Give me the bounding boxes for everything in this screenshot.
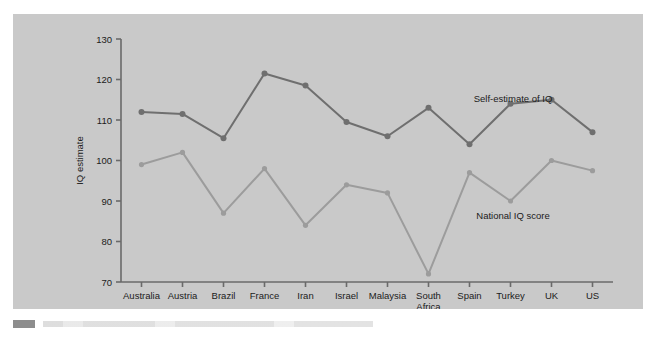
figure-caption-strip [13, 318, 643, 332]
x-axis-category-label: Brazil [212, 290, 236, 301]
data-point-marker [139, 162, 144, 167]
data-point-marker [344, 182, 349, 187]
data-point-marker [426, 271, 431, 276]
data-point-marker [467, 141, 473, 147]
y-axis-tick-label: 120 [96, 74, 112, 85]
data-point-marker [180, 111, 186, 117]
x-axis-category-label: Spain [457, 290, 481, 301]
data-point-marker [221, 135, 227, 141]
annotation-national-iq: National IQ score [476, 210, 549, 221]
series-line-self-estimate [142, 73, 593, 144]
y-axis-tick-label: 110 [97, 115, 112, 126]
y-axis-tick-label: 100 [96, 155, 112, 166]
y-axis-tick-label: 90 [101, 196, 112, 207]
data-point-marker [139, 109, 145, 115]
x-axis-category-label: Israel [335, 290, 358, 301]
annotation-self-estimate: Self-estimate of IQ [474, 93, 553, 104]
data-point-marker [344, 119, 350, 125]
data-point-marker [467, 170, 472, 175]
data-point-marker [385, 133, 391, 139]
caption-marker [13, 320, 35, 328]
figure-container: 130120110100908070AustraliaAustriaBrazil… [0, 0, 656, 337]
x-axis-category-label: UK [545, 290, 559, 301]
x-axis-category-label: Iran [297, 290, 313, 301]
data-point-marker [590, 168, 595, 173]
data-point-marker [180, 150, 185, 155]
x-axis-category-label: Turkey [496, 290, 525, 301]
x-axis-category-label: US [586, 290, 599, 301]
line-chart: 130120110100908070AustraliaAustriaBrazil… [13, 14, 643, 309]
data-point-marker [549, 158, 554, 163]
data-point-marker [303, 223, 308, 228]
x-axis-category-label: France [250, 290, 280, 301]
data-point-marker [262, 70, 268, 76]
x-axis-category-label: Austria [168, 290, 198, 301]
chart-panel: 130120110100908070AustraliaAustriaBrazil… [13, 14, 643, 309]
data-point-marker [426, 105, 432, 111]
data-point-marker [590, 129, 596, 135]
caption-text-blur [43, 321, 373, 327]
y-axis-tick-label: 70 [101, 277, 112, 288]
x-axis-category-label: Africa [416, 301, 441, 309]
data-point-marker [221, 211, 226, 216]
y-axis-tick-label: 130 [96, 34, 112, 45]
y-axis-title: IQ estimate [74, 136, 85, 185]
x-axis-category-label: Australia [123, 290, 161, 301]
x-axis-category-label: South [416, 290, 441, 301]
x-axis-category-label: Malaysia [369, 290, 407, 301]
data-point-marker [303, 83, 309, 89]
data-point-marker [508, 198, 513, 203]
data-point-marker [385, 190, 390, 195]
y-axis-tick-label: 80 [101, 236, 112, 247]
data-point-marker [262, 166, 267, 171]
